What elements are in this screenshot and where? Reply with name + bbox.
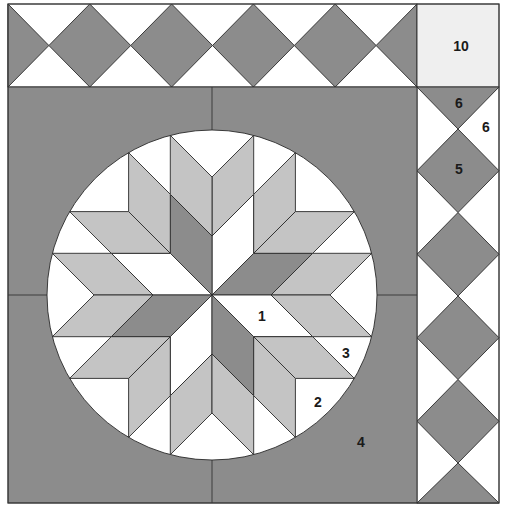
piece-label-6-dark: 6: [455, 95, 463, 111]
top-border: [8, 4, 417, 87]
piece-label-5: 5: [455, 161, 463, 177]
piece-label-4: 4: [357, 434, 365, 450]
piece-label-1: 1: [258, 308, 266, 324]
side-border: [417, 4, 499, 503]
piece-label-3: 3: [342, 345, 350, 361]
piece-label-6-white: 6: [482, 119, 490, 135]
piece-label-10: 10: [453, 38, 469, 54]
quilt-pattern-diagram: 1 2 3 4 5 6 6 10: [0, 0, 510, 508]
piece-label-2: 2: [314, 394, 322, 410]
